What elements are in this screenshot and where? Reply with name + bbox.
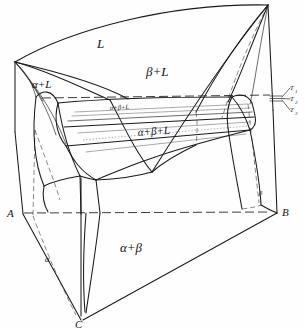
front-boundary-descend bbox=[96, 180, 100, 213]
vertex-label-B: B bbox=[282, 206, 289, 218]
isotherm-T1-subscript: 1 bbox=[295, 89, 298, 94]
alpha-solidus-hood bbox=[36, 92, 58, 103]
isotherm-label-T1: T 1 bbox=[290, 84, 298, 94]
isotherm-leader-2 bbox=[282, 99, 290, 100]
vertex-label-A: A bbox=[6, 207, 14, 219]
label-alpha-field: α bbox=[45, 254, 50, 264]
slab-top-front-edge bbox=[58, 97, 232, 103]
label-beta-plus-liquid: β+L bbox=[145, 64, 168, 79]
edge-A-vertical-lower bbox=[15, 132, 23, 214]
label-alpha-beta-liquid-lower: α+β+L bbox=[137, 124, 170, 138]
alpha-solidus-bottom bbox=[44, 176, 80, 186]
beta-solidus-hood-right bbox=[250, 103, 256, 130]
liquidus-valley-right bbox=[152, 5, 268, 172]
slab-right-endcap bbox=[232, 97, 250, 130]
liquidus-back-ridge bbox=[15, 5, 268, 62]
slab-ruling-3 bbox=[68, 112, 252, 121]
vertex-label-C: C bbox=[75, 318, 83, 329]
hidden-alpha-back-edge bbox=[35, 130, 60, 200]
hidden-beta-valley bbox=[196, 112, 197, 145]
isotherm-leader-3 bbox=[282, 100, 290, 110]
isotherm-T2-subscript: 2 bbox=[295, 100, 298, 105]
label-alpha-beta-liquid-upper: α+β+L bbox=[110, 103, 130, 111]
base-edge-BC bbox=[83, 213, 277, 320]
label-liquid: L bbox=[96, 36, 104, 51]
beta-solidus-mid-edge bbox=[228, 128, 242, 209]
liquidus-surface bbox=[15, 5, 268, 172]
edge-B-vertical-lower bbox=[273, 110, 277, 213]
alpha-liquidus-front-curve bbox=[15, 62, 110, 100]
alpha-sheet-front bbox=[43, 186, 48, 212]
label-alpha-plus-liquid: α+L bbox=[32, 78, 51, 90]
slab-ruling-2 bbox=[72, 108, 250, 116]
base-edge-AC bbox=[23, 214, 81, 320]
ternary-prism-diagram: L α+L β+L α+β+L α+β+L α+β α β A B C T 1 … bbox=[0, 0, 304, 329]
phase-diagram-figure: L α+L β+L α+β+L α+β+L α+β α β A B C T 1 … bbox=[0, 0, 304, 329]
beta-solidus-base-dashed bbox=[242, 205, 261, 209]
slab-ruling-1 bbox=[75, 104, 248, 112]
edge-B-vertical-upper bbox=[268, 5, 273, 110]
isotherm-label-T3: T 3 bbox=[290, 106, 298, 116]
isotherm-leader-1 bbox=[282, 88, 290, 97]
beta-liquidus-ruling-1 bbox=[228, 5, 268, 102]
central-front-surfaces bbox=[66, 130, 250, 313]
beta-solidus-hood bbox=[232, 95, 252, 103]
front-ridge-right bbox=[96, 130, 250, 180]
isotherm-label-T2: T 2 bbox=[290, 95, 298, 105]
hidden-beta-back-edge bbox=[248, 104, 259, 203]
valley-right-branch bbox=[152, 145, 196, 172]
beta-liquidus-ruling-2 bbox=[250, 5, 268, 104]
solidus-surfaces bbox=[34, 92, 261, 214]
front-ridge-left bbox=[66, 146, 96, 180]
front-curve-to-C bbox=[86, 213, 100, 313]
diagram-labels: L α+L β+L α+β+L α+β+L α+β α β A B C T 1 … bbox=[6, 36, 298, 329]
three-phase-slab bbox=[42, 95, 270, 152]
base-edge-AB bbox=[24, 212, 271, 213]
base-alpha-beta-boundary bbox=[83, 213, 86, 312]
base-triangle bbox=[23, 205, 277, 320]
label-beta-field: β bbox=[258, 189, 263, 196]
label-alpha-plus-beta: α+β bbox=[120, 240, 143, 255]
isotherm-T3-subscript: 3 bbox=[295, 111, 298, 116]
